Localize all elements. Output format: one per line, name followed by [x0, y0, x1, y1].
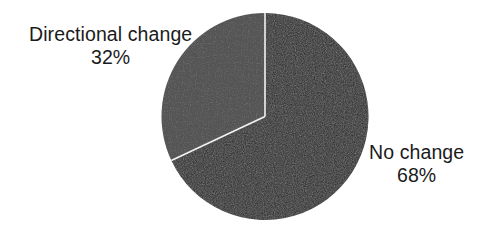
- slice-label-directional-change: Directional change 32%: [29, 24, 192, 68]
- slice-label-directional-change-name: Directional change: [29, 24, 192, 45]
- pie-chart-figure: Directional change 32% No change 68%: [0, 0, 485, 229]
- slice-label-directional-change-value: 32%: [29, 47, 192, 68]
- slice-label-no-change: No change 68%: [369, 142, 464, 186]
- slice-label-no-change-value: 68%: [369, 165, 464, 186]
- slice-label-no-change-name: No change: [369, 142, 464, 163]
